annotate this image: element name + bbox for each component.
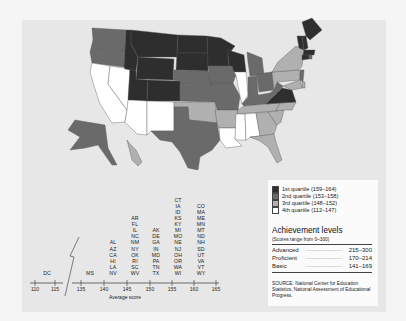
dotplot-state-label: WY <box>191 270 211 276</box>
legend-label: 2nd quartile (153–158) <box>282 193 338 199</box>
tick-label: 165 <box>208 286 224 292</box>
dotplot-state-label: ME <box>191 215 211 221</box>
dotplot-state-label: NE <box>168 239 188 245</box>
dotplot-state-label: IN <box>146 246 166 252</box>
dotplot-state-label: VT <box>191 264 211 270</box>
level-name: Basic <box>272 263 287 270</box>
divider <box>272 244 372 245</box>
dotplot-state-label: AK <box>146 227 166 233</box>
legend-label: 1st quartile (159–164) <box>282 186 336 192</box>
legend-label: 3rd quartile (148–152) <box>282 200 337 206</box>
dotplot-state-label: MI <box>168 227 188 233</box>
dotplot-state-label: OK <box>125 252 145 258</box>
dotplot-state-label: DE <box>146 233 166 239</box>
tick-label: 155 <box>164 286 180 292</box>
dotplot-state-label: NY <box>125 246 145 252</box>
dotplot-state-label: AR <box>125 215 145 221</box>
dotplot-state-label: MS <box>80 270 100 276</box>
dotplot-state-label: MD <box>146 252 166 258</box>
swatch-q4 <box>272 207 279 214</box>
dotplot-state-label: SD <box>191 246 211 252</box>
legend-label: 4th quartile (112–147) <box>282 207 336 213</box>
level-basic: Basic.................................14… <box>272 263 372 270</box>
dotplot-state-label: NM <box>125 239 145 245</box>
dotplot-state-label: TX <box>146 270 166 276</box>
dotplot-state-label: MO <box>168 233 188 239</box>
source-note: SOURCE: National Center for Education St… <box>272 281 374 300</box>
dotplot-state-label: OH <box>168 252 188 258</box>
dotplot-state-label: MA <box>191 209 211 215</box>
dotplot-state-label: TN <box>146 264 166 270</box>
dotplot-state-label: MN <box>191 221 211 227</box>
dotplot-state-label: CA <box>103 252 123 258</box>
dotplot-state-label: IL <box>125 227 145 233</box>
tick-label: 115 <box>47 286 63 292</box>
level-advanced: Advanced................................… <box>272 247 372 254</box>
dotplot-state-label: OR <box>168 258 188 264</box>
dotplot-state-label: PA <box>146 258 166 264</box>
dotplot-state-label: DC <box>37 270 57 276</box>
level-name: Proficient <box>272 255 297 262</box>
level-range: 170–214 <box>349 255 372 262</box>
dotplot-state-label: WI <box>168 270 188 276</box>
legend-item-q4: 4th quartile (112–147) <box>272 207 336 214</box>
swatch-q3 <box>272 200 279 207</box>
dotplot-state-label: ID <box>168 209 188 215</box>
dotplot-state-label: NC <box>125 233 145 239</box>
dotplot-state-label: MT <box>191 227 211 233</box>
dotplot-state-label: UT <box>191 252 211 258</box>
dotplot-state-label: FL <box>125 221 145 227</box>
dotplot-state-label: CT <box>168 197 188 203</box>
dotplot-state-label: KS <box>168 215 188 221</box>
legend-item-q2: 2nd quartile (153–158) <box>272 193 338 200</box>
level-range: 215–300 <box>349 247 372 254</box>
tick-label: 145 <box>119 286 135 292</box>
tick-label: 110 <box>27 286 43 292</box>
dotplot-state-label: SC <box>125 264 145 270</box>
dotplot-state-label: AZ <box>103 246 123 252</box>
tick-label: 140 <box>96 286 112 292</box>
dotplot-state-label: WV <box>125 270 145 276</box>
legend-box: 1st quartile (159–164) 2nd quartile (153… <box>268 180 378 306</box>
dotplot-state-label: RI <box>125 258 145 264</box>
legend-item-q3: 3rd quartile (148–152) <box>272 200 337 207</box>
legend-item-q1: 1st quartile (159–164) <box>272 186 336 193</box>
tick-label: 135 <box>73 286 89 292</box>
dotplot-state-label: LA <box>103 264 123 270</box>
dotplot-state-label: NJ <box>168 246 188 252</box>
dotplot-state-label: CO <box>191 203 211 209</box>
divider <box>272 272 372 273</box>
swatch-q2 <box>272 193 279 200</box>
level-range: 141–169 <box>349 263 372 270</box>
dotplot-state-label: KY <box>168 221 188 227</box>
tick-label: 150 <box>142 286 158 292</box>
achievement-subtitle: (Scores range from 0–300) <box>272 237 329 242</box>
dotplot-state-label: GA <box>146 239 166 245</box>
dotplot-state-label: WA <box>168 264 188 270</box>
dotplot-state-label: NH <box>191 239 211 245</box>
axis-title: Average score <box>95 294 155 300</box>
dotplot-state-label: AL <box>103 239 123 245</box>
level-name: Advanced <box>272 247 299 254</box>
achievement-title: Achievement levels <box>272 226 343 235</box>
dotplot-state-label: IA <box>168 203 188 209</box>
dotplot-state-label: NV <box>103 270 123 276</box>
dotplot-state-label: HI <box>103 258 123 264</box>
dotplot-state-label: VA <box>191 258 211 264</box>
tick-label: 160 <box>186 286 202 292</box>
swatch-q1 <box>272 186 279 193</box>
level-proficient: Proficient..............................… <box>272 255 372 262</box>
dotplot-state-label: ND <box>191 233 211 239</box>
